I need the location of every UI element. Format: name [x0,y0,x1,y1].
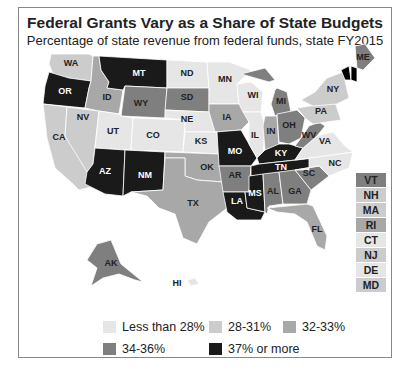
label-FL: FL [312,224,323,234]
legend-swatch [209,321,222,333]
label-NE: NE [181,114,194,124]
label-AL: AL [267,186,279,196]
legend-swatch [209,343,222,355]
ne-box-ri[interactable]: RI [356,218,386,232]
label-VA: VA [319,136,331,146]
label-AR: AR [229,170,242,180]
label-GA: GA [288,186,302,196]
label-OH: OH [282,120,296,130]
label-WY: WY [134,98,149,108]
label-NY: NY [327,84,340,94]
label-MT: MT [133,68,146,78]
label-OK: OK [200,162,214,172]
label-PA: PA [315,106,327,116]
label-MS: MS [248,188,262,198]
label-KY: KY [275,148,288,158]
legend-swatch [103,343,116,355]
ne-box-nh[interactable]: NH [356,188,386,202]
legend-swatch [283,321,296,333]
label-SC: SC [303,168,316,178]
ne-box-ma[interactable]: MA [356,203,386,217]
ne-box-nj[interactable]: NJ [356,248,386,262]
state-HI[interactable] [187,278,199,286]
label-NC: NC [329,158,342,168]
us-map: WA OR CA NV ID MT WY UT CO AZ NM ND SD N… [19,8,393,308]
legend-item-37plus: 37% or more [209,342,300,356]
label-WI: WI [248,90,259,100]
label-HI: HI [173,278,182,288]
label-UT: UT [107,126,119,136]
ne-box-vt[interactable]: VT [356,173,386,187]
ne-box-de[interactable]: DE [356,263,386,277]
label-MO: MO [228,146,243,156]
legend-label: Less than 28% [122,320,205,334]
label-SD: SD [181,92,194,102]
legend-label: 32-33% [302,320,345,334]
label-WV: WV [302,130,317,140]
label-ND: ND [181,68,194,78]
label-CA: CA [53,132,66,142]
ne-box-ct[interactable]: CT [356,233,386,247]
chart-frame: Federal Grants Vary as a Share of State … [18,7,392,358]
label-MI: MI [276,96,286,106]
legend-item-32-33: 32-33% [283,320,345,334]
label-ID: ID [103,92,113,102]
label-TX: TX [187,198,199,208]
legend-item-28-31: 28-31% [209,320,271,334]
label-OR: OR [58,86,72,96]
legend-label: 34-36% [122,342,165,356]
legend-item-lt28: Less than 28% [103,320,205,334]
state-NH-shape[interactable] [351,66,357,82]
state-NY[interactable] [301,72,349,106]
label-IL: IL [251,130,260,140]
label-AK: AK [105,258,118,268]
label-WA: WA [64,58,79,68]
label-NM: NM [138,170,152,180]
legend-label: 28-31% [228,320,271,334]
label-CO: CO [146,130,160,140]
legend-swatch [103,321,116,333]
label-AZ: AZ [99,166,111,176]
label-NV: NV [77,112,90,122]
label-IN: IN [267,126,276,136]
legend-label: 37% or more [228,342,300,356]
label-MN: MN [218,74,232,84]
label-IA: IA [223,112,233,122]
label-LA: LA [231,196,243,206]
label-KS: KS [195,136,208,146]
ne-box-md[interactable]: MD [356,278,386,292]
label-ME: ME [356,52,370,62]
label-TN: TN [275,162,287,172]
legend-item-34-36: 34-36% [103,342,165,356]
